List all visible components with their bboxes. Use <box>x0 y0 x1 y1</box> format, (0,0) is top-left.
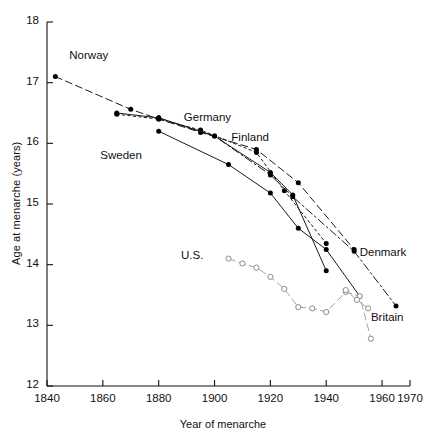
data-point <box>366 306 371 311</box>
series-finland <box>114 111 328 274</box>
data-point <box>212 134 217 139</box>
series-label-denmark: Denmark <box>360 246 407 258</box>
data-point <box>296 226 301 231</box>
series-label-britain: Britain <box>371 311 404 323</box>
y-tick-label: 12 <box>13 378 39 390</box>
series-label-norway: Norway <box>69 49 108 61</box>
y-tick-label: 17 <box>13 75 39 87</box>
plot-area <box>0 0 446 442</box>
y-tick-label: 18 <box>13 14 39 26</box>
axis-lines <box>47 22 410 386</box>
data-point <box>226 256 231 261</box>
x-tick-label: 1900 <box>195 392 235 404</box>
data-point <box>343 288 348 293</box>
series-us <box>226 256 374 341</box>
data-point <box>53 74 58 79</box>
y-tick-label: 15 <box>13 196 39 208</box>
x-tick-label: 1940 <box>306 392 346 404</box>
x-tick-label: 1880 <box>139 392 179 404</box>
data-point <box>324 268 329 273</box>
data-point <box>310 306 315 311</box>
x-axis-title: Year of menarche <box>0 418 446 430</box>
series-label-us: U.S. <box>181 249 203 261</box>
series-label-germany: Germany <box>184 111 231 123</box>
menarche-age-line-chart: Age at menarche (years) Year of menarche… <box>0 0 446 442</box>
data-point <box>268 191 273 196</box>
series-label-sweden: Sweden <box>100 149 142 161</box>
data-point <box>296 180 301 185</box>
data-point <box>240 261 245 266</box>
tick-marks <box>47 22 410 386</box>
series-denmark <box>156 115 398 308</box>
data-point <box>324 309 329 314</box>
y-tick-label: 13 <box>13 317 39 329</box>
x-tick-label: 1840 <box>27 392 67 404</box>
data-point <box>282 286 287 291</box>
data-point <box>128 107 133 112</box>
y-tick-label: 14 <box>13 257 39 269</box>
series-britain <box>343 288 371 311</box>
data-point <box>268 172 273 177</box>
data-point <box>352 249 357 254</box>
data-point <box>296 305 301 310</box>
data-point <box>324 247 329 252</box>
data-point <box>156 115 161 120</box>
series-sweden <box>156 129 362 299</box>
data-point <box>156 129 161 134</box>
x-tick-label: 1970 <box>390 392 430 404</box>
series-norway <box>53 74 357 252</box>
data-point <box>268 274 273 279</box>
data-point <box>254 150 259 155</box>
data-point <box>254 265 259 270</box>
series-label-finland: Finland <box>231 131 269 143</box>
data-point <box>394 303 399 308</box>
data-point <box>368 336 373 341</box>
y-tick-label: 16 <box>13 135 39 147</box>
data-point <box>226 162 231 167</box>
data-point <box>324 241 329 246</box>
data-point <box>114 111 119 116</box>
x-tick-label: 1920 <box>250 392 290 404</box>
data-point <box>290 194 295 199</box>
x-tick-label: 1860 <box>83 392 123 404</box>
data-point <box>354 297 359 302</box>
